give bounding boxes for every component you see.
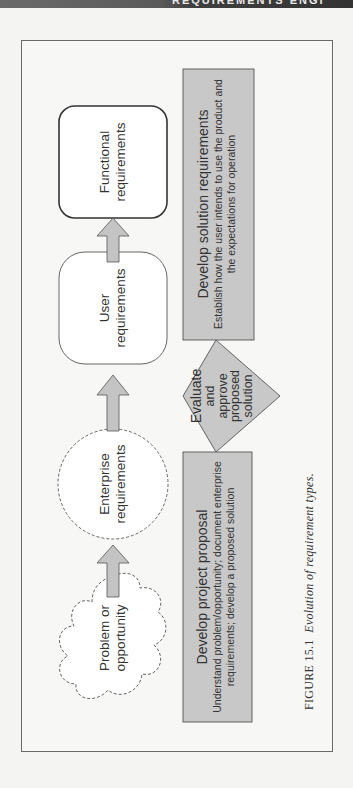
label-line: requirements xyxy=(113,434,129,534)
label-line: Problem or xyxy=(97,588,113,688)
label-line: requirements xyxy=(113,258,129,358)
decision-line: and xyxy=(204,358,217,434)
decision-line: Evaluate xyxy=(189,358,204,434)
label-line: requirements xyxy=(113,112,129,212)
label-line: opportunity xyxy=(113,588,129,688)
problem-opportunity-label: Problem or opportunity xyxy=(97,588,129,688)
decision-line: solution xyxy=(242,358,255,434)
figure-caption-text: Evolution of requirement types. xyxy=(302,473,316,633)
label-line: Functional xyxy=(97,112,113,212)
figure-number: FIGURE 15.1 xyxy=(302,639,316,710)
arrow-up-icon xyxy=(97,375,129,431)
proposal-box-text: Develop project proposal Understand prob… xyxy=(194,453,242,721)
solution-box-desc-1: Establish how the user intends to use th… xyxy=(212,70,225,338)
label-line: Enterprise xyxy=(97,434,113,534)
decision-line: proposed xyxy=(229,358,242,434)
label-line: User xyxy=(97,258,113,358)
decision-label: Evaluate and approve proposed solution xyxy=(189,358,253,434)
enterprise-requirements-label: Enterprise requirements xyxy=(97,434,129,534)
solution-box-text: Develop solution requirements Establish … xyxy=(195,70,243,338)
user-requirements-label: User requirements xyxy=(97,258,129,358)
proposal-box-title: Develop project proposal xyxy=(194,453,211,721)
functional-requirements-label: Functional requirements xyxy=(97,112,129,212)
proposal-box-desc-2: requirements; develop a proposed solutio… xyxy=(224,453,237,721)
solution-box-title: Develop solution requirements xyxy=(195,70,212,338)
figure-caption: FIGURE 15.1 Evolution of requirement typ… xyxy=(302,400,318,710)
requirements-evolution-diagram xyxy=(0,0,353,788)
proposal-box-desc-1: Understand problem/opportunity; document… xyxy=(211,453,224,721)
solution-box-desc-2: the expectations for operation xyxy=(225,70,238,338)
